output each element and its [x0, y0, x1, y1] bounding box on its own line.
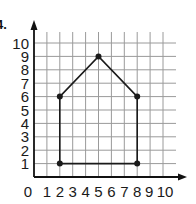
x-tick-label: 3: [69, 183, 77, 200]
x-tick-label: 8: [133, 183, 141, 200]
x-tick-label: 2: [56, 183, 64, 200]
x-axis-arrow-icon: [178, 174, 187, 181]
vertex-point: [57, 161, 63, 167]
x-tick-label: 10: [157, 183, 174, 200]
coordinate-grid-chart: 12345678910 012345678910: [0, 0, 196, 204]
x-tick-label: 5: [94, 183, 102, 200]
axes: [31, 20, 188, 181]
vertex-point: [134, 161, 140, 167]
x-tick-label: 6: [107, 183, 115, 200]
x-tick-label: 1: [43, 183, 51, 200]
x-tick-label: 9: [145, 183, 153, 200]
x-axis-tick-labels: 012345678910: [24, 183, 174, 200]
vertex-point: [134, 94, 140, 100]
vertex-point: [96, 53, 102, 59]
y-tick-label: 10: [12, 35, 29, 52]
y-axis-tick-labels: 12345678910: [12, 35, 29, 173]
x-tick-label: 0: [24, 183, 32, 200]
grid-lines: [34, 32, 176, 177]
x-tick-label: 7: [120, 183, 128, 200]
y-axis-arrow-icon: [31, 20, 38, 30]
x-tick-label: 4: [81, 183, 89, 200]
vertex-point: [57, 94, 63, 100]
